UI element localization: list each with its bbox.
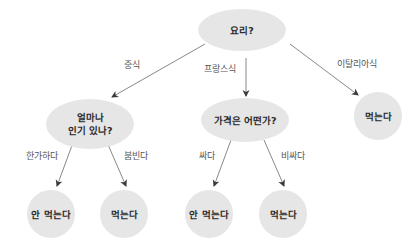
edge-price-expensive: 비싸다 [264, 140, 306, 186]
node-price-question: 가격은 어떤가? [201, 98, 289, 142]
nodes: 요리? 얼마나 인기 있나? 가격은 어떤가? 먹는다 안 먹는다 먹는다 안 … [27, 9, 402, 238]
edge-label-quiet: 한가하다 [26, 151, 59, 161]
edge-popularity-busy: 붐빈다 [106, 140, 149, 186]
edge-line-italian [290, 44, 358, 95]
node-root-label: 요리? [230, 25, 254, 36]
leaf-busy-eat: 먹는다 [100, 190, 148, 238]
node-popularity-label-line1: 얼마나 [77, 112, 104, 123]
edge-popularity-quiet: 한가하다 [26, 140, 74, 186]
edge-line-busy [106, 140, 126, 186]
leaf-cheap-no-eat-label: 안 먹는다 [189, 209, 228, 220]
edge-root-price: 프랑스식 [204, 58, 246, 96]
edge-label-chinese: 중식 [124, 60, 140, 70]
node-price-label: 가격은 어떤가? [214, 115, 277, 126]
edge-line-expensive [264, 140, 284, 186]
edge-label-cheap: 싸다 [199, 151, 216, 161]
leaf-cheap-no-eat: 안 먹는다 [185, 190, 233, 238]
edge-line-chinese [112, 44, 205, 97]
node-popularity-label-line2: 인기 있나? [68, 125, 113, 136]
leaf-italian-eat: 먹는다 [354, 92, 402, 140]
leaf-expensive-eat-label: 먹는다 [270, 209, 297, 220]
edge-label-italian: 이탈리아식 [337, 59, 377, 69]
decision-tree-diagram: 중식 프랑스식 이탈리아식 한가하다 붐빈다 싸다 비싸다 [0, 0, 420, 252]
edge-label-expensive: 비싸다 [281, 151, 306, 161]
edge-label-french: 프랑스식 [204, 63, 236, 74]
node-root-question: 요리? [198, 9, 286, 51]
edge-label-busy: 붐빈다 [124, 151, 149, 161]
leaf-quiet-no-eat-label: 안 먹는다 [31, 209, 70, 220]
leaf-italian-eat-label: 먹는다 [365, 111, 392, 122]
leaf-quiet-no-eat: 안 먹는다 [27, 190, 75, 238]
node-popularity-shape [46, 99, 134, 149]
leaf-busy-eat-label: 먹는다 [111, 209, 138, 220]
edge-price-cheap: 싸다 [199, 140, 231, 186]
edge-line-quiet [57, 140, 74, 186]
leaf-expensive-eat: 먹는다 [259, 190, 307, 238]
edge-root-italian: 이탈리아식 [290, 44, 377, 95]
edge-root-popularity: 중식 [112, 44, 205, 97]
edge-line-cheap [214, 140, 231, 186]
node-popularity-question: 얼마나 인기 있나? [46, 99, 134, 149]
